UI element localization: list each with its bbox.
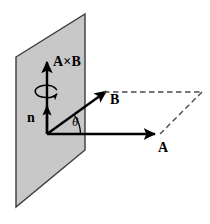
cross-product-diagram: A×B n B A θ (0, 0, 210, 224)
label-vector-b: B (110, 93, 119, 107)
label-vector-a: A (158, 141, 168, 155)
label-normal-vector: n (27, 111, 35, 125)
label-cross-product: A×B (53, 55, 81, 69)
dashed-edge-right (160, 92, 202, 134)
label-angle-theta: θ (72, 115, 78, 128)
